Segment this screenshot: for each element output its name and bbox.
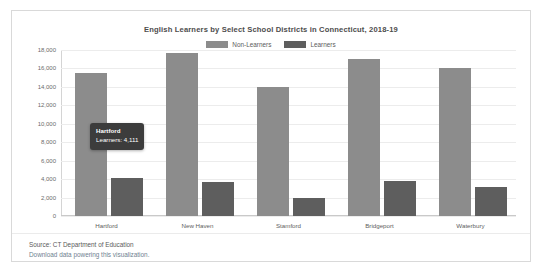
bar-group: New Haven [152, 50, 243, 216]
bar-group: Bridgeport [334, 50, 425, 216]
x-axis-tick-label: Hartford [61, 222, 152, 229]
footer-divider [12, 233, 530, 234]
legend-swatch-non-learners [206, 41, 228, 48]
bar-non-learners[interactable] [348, 59, 380, 216]
y-axis-tick-label: 12,000 [38, 102, 56, 108]
y-axis-tick-label: 6,000 [41, 158, 56, 164]
bar-learners[interactable] [475, 187, 507, 216]
legend-label-learners: Learners [310, 41, 335, 48]
y-axis-tick-label: 8,000 [41, 139, 56, 145]
gridline [61, 216, 516, 217]
y-axis-tick-label: 0 [53, 213, 56, 219]
bar-group: Stamford [243, 50, 334, 216]
y-axis-tick-label: 2,000 [41, 195, 56, 201]
x-axis-tick-label: Bridgeport [334, 222, 425, 229]
legend-swatch-learners [284, 41, 306, 48]
legend-item-learners[interactable]: Learners [284, 41, 335, 48]
bar-non-learners[interactable] [257, 87, 289, 216]
legend-label-non-learners: Non-Learners [232, 41, 271, 48]
bar-non-learners[interactable] [439, 68, 471, 216]
chart-tooltip: Hartford Learners: 4,111 [90, 123, 144, 150]
y-axis-tick-label: 16,000 [38, 65, 56, 71]
legend-item-non-learners[interactable]: Non-Learners [206, 41, 271, 48]
visualization-card: English Learners by Select School Distri… [11, 10, 531, 262]
bar-learners[interactable] [384, 181, 416, 216]
download-data-link[interactable]: Download data powering this visualizatio… [29, 250, 149, 260]
x-axis-tick-label: Stamford [243, 222, 334, 229]
source-text: Source: CT Department of Education [29, 240, 149, 250]
chart-legend: Non-Learners Learners [12, 41, 530, 48]
bar-learners[interactable] [293, 198, 325, 216]
x-axis-tick-label: Waterbury [425, 222, 516, 229]
footer: Source: CT Department of Education Downl… [29, 240, 149, 260]
y-axis-tick-label: 10,000 [38, 121, 56, 127]
bar-learners[interactable] [202, 182, 234, 216]
x-axis-tick-label: New Haven [152, 222, 243, 229]
y-axis-tick-label: 18,000 [38, 47, 56, 53]
bar-non-learners[interactable] [166, 53, 198, 216]
bar-group: Waterbury [425, 50, 516, 216]
tooltip-title: Hartford [96, 127, 138, 136]
chart-title: English Learners by Select School Distri… [12, 25, 530, 34]
y-axis-tick-label: 4,000 [41, 176, 56, 182]
y-axis-tick-label: 14,000 [38, 84, 56, 90]
bar-learners[interactable] [111, 178, 143, 216]
tooltip-value: Learners: 4,111 [96, 136, 138, 145]
